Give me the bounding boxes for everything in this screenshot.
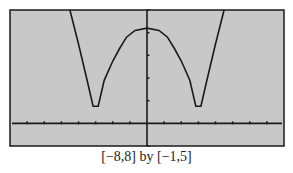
graph-window [0, 0, 293, 150]
window-caption: [−8,8] by [−1,5] [0, 149, 293, 165]
